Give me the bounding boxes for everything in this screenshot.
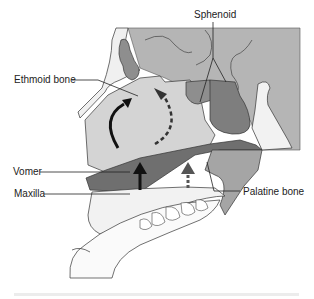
label-vomer: Vomer [13,166,42,178]
label-maxilla: Maxilla [14,188,45,200]
caption-bar [14,293,299,296]
nasal-cavity-diagram [0,0,314,299]
label-sphenoid: Sphenoid [194,9,236,21]
label-ethmoid-bone: Ethmoid bone [14,74,76,86]
sphenoid-sinus-left [186,80,212,104]
label-palatine-bone: Palatine bone [243,186,304,198]
arrowhead-icon [181,162,195,174]
